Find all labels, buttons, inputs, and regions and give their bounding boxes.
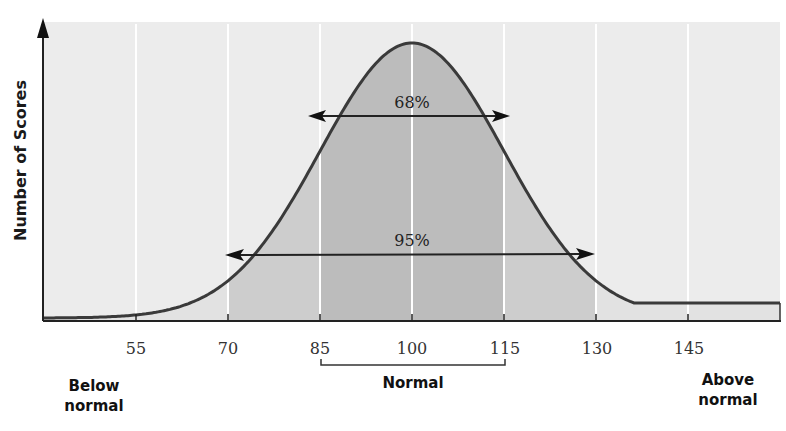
y-axis-label-text: Number of Scores xyxy=(11,79,30,240)
label-above-normal: Above normal xyxy=(698,370,757,410)
tick-label-70: 70 xyxy=(218,339,238,358)
above-line1: Above xyxy=(698,370,757,390)
y-axis-label: Number of Scores xyxy=(6,60,34,260)
tick-label-55: 55 xyxy=(126,339,146,358)
normal-text: Normal xyxy=(382,373,443,393)
tick-label-115: 115 xyxy=(490,339,521,358)
above-line2: normal xyxy=(698,390,757,410)
label-normal: Normal xyxy=(382,373,443,393)
label-below-normal: Below normal xyxy=(64,376,123,416)
normal-bracket xyxy=(321,359,505,365)
bell-curve-chart xyxy=(0,0,786,431)
below-line1: Below xyxy=(64,376,123,396)
tick-label-145: 145 xyxy=(674,339,705,358)
tick-label-100: 100 xyxy=(397,339,428,358)
tick-label-85: 85 xyxy=(310,339,330,358)
tick-label-130: 130 xyxy=(582,339,613,358)
below-line2: normal xyxy=(64,396,123,416)
label-95-percent: 95% xyxy=(394,231,430,250)
label-68-percent: 68% xyxy=(394,93,430,112)
